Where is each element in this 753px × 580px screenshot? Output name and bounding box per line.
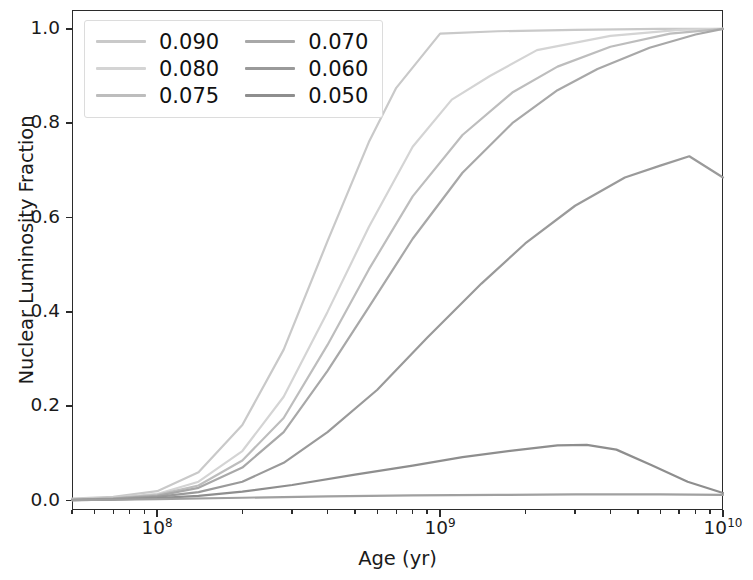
legend: 0.0900.0700.0800.0600.0750.050 [84, 20, 383, 118]
y-tick-label: 0.8 [2, 111, 60, 132]
legend-swatch-cell [96, 28, 159, 55]
legend-swatch-cell [96, 82, 159, 109]
x-tick-mark-minor [525, 510, 526, 514]
x-tick-mark-minor [129, 510, 130, 514]
legend-row: 0.0900.070 [96, 28, 368, 55]
x-tick-mark-minor [71, 510, 72, 514]
legend-swatch-cell [245, 55, 308, 82]
legend-swatch-cell [96, 55, 159, 82]
legend-label: 0.080 [159, 55, 245, 82]
x-tick-mark-minor [144, 510, 145, 514]
legend-table: 0.0900.0700.0800.0600.0750.050 [96, 28, 368, 109]
legend-label: 0.060 [308, 55, 368, 82]
x-tick-mark-minor [412, 510, 413, 514]
x-tick-mark-minor [637, 510, 638, 514]
y-tick-label: 0.4 [2, 300, 60, 321]
legend-line-swatch [245, 94, 295, 97]
x-tick-mark-minor [709, 510, 710, 514]
legend-line-swatch [245, 40, 295, 43]
legend-label: 0.090 [159, 28, 245, 55]
legend-swatch-cell [245, 82, 308, 109]
x-tick-mark-minor [327, 510, 328, 514]
legend-line-swatch [245, 67, 295, 70]
legend-row: 0.0800.060 [96, 55, 368, 82]
x-tick-mark-minor [94, 510, 95, 514]
x-tick-mark-minor [242, 510, 243, 514]
legend-label: 0.075 [159, 82, 245, 109]
x-tick-mark-minor [574, 510, 575, 514]
x-tick-mark-minor [426, 510, 427, 514]
x-tick-mark-major [439, 510, 441, 517]
legend-row: 0.0750.050 [96, 82, 368, 109]
y-axis-label: Nuclear Luminosity Fraction [14, 0, 40, 500]
figure: Nuclear Luminosity Fraction Age (yr) 0.0… [0, 0, 753, 580]
x-tick-label: 108 [117, 516, 197, 538]
x-tick-label: 1010 [683, 516, 753, 538]
x-tick-mark-minor [610, 510, 611, 514]
legend-label: 0.070 [308, 28, 368, 55]
legend-line-swatch [96, 40, 146, 43]
legend-line-swatch [96, 67, 146, 70]
y-tick-label: 0.0 [2, 489, 60, 510]
legend-label: 0.050 [308, 82, 368, 109]
x-tick-mark-minor [660, 510, 661, 514]
x-tick-mark-minor [695, 510, 696, 514]
x-tick-mark-minor [377, 510, 378, 514]
x-tick-mark-minor [113, 510, 114, 514]
y-tick-label: 0.6 [2, 206, 60, 227]
plot-area: 0.0900.0700.0800.0600.0750.050 [72, 10, 723, 510]
legend-line-swatch [96, 94, 146, 97]
legend-swatch-cell [245, 28, 308, 55]
curve-0.060 [72, 156, 723, 500]
x-tick-mark-minor [396, 510, 397, 514]
x-tick-mark-minor [678, 510, 679, 514]
y-tick-label: 0.2 [2, 394, 60, 415]
x-tick-mark-major [156, 510, 158, 517]
x-tick-mark-major [722, 510, 724, 517]
x-axis-label: Age (yr) [72, 547, 723, 570]
x-tick-label: 109 [400, 516, 480, 538]
x-tick-mark-minor [354, 510, 355, 514]
y-tick-label: 1.0 [2, 17, 60, 38]
x-tick-mark-minor [291, 510, 292, 514]
